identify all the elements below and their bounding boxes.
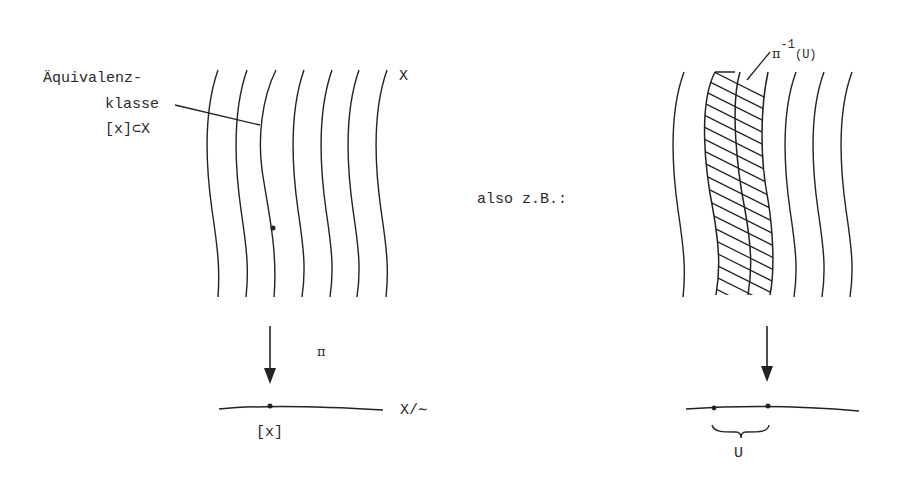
annotation-leader <box>175 105 260 125</box>
preimage-label: π-1(U) <box>754 24 817 64</box>
point-U-left <box>712 406 717 411</box>
preimage-pi: π <box>772 46 781 61</box>
arrowhead-icon <box>264 368 276 384</box>
fiber <box>813 72 824 297</box>
point-class-x <box>268 404 273 409</box>
quotient-label: X/∼ <box>400 402 427 419</box>
fiber <box>236 70 247 297</box>
preimage-band <box>690 60 790 326</box>
band-left-edge <box>705 72 719 295</box>
quotient-line-left <box>219 407 383 411</box>
fibers-left <box>207 70 387 297</box>
preimage-arg: (U) <box>795 48 817 62</box>
fiber <box>348 70 359 297</box>
annotation-line2: klasse <box>105 96 159 113</box>
brace-U <box>712 425 769 438</box>
middle-text: also z.B.: <box>477 191 567 208</box>
arrowhead-icon <box>761 366 773 382</box>
fiber <box>207 70 219 297</box>
preimage-exp: -1 <box>781 38 795 52</box>
point-x <box>271 226 276 231</box>
point-label-x: [x] <box>256 424 283 441</box>
map-label-pi: π <box>317 343 326 360</box>
fiber <box>785 72 796 297</box>
fiber <box>673 72 684 297</box>
point-U-right <box>766 404 771 409</box>
annotation-line3: [x]⊂X <box>105 121 150 138</box>
open-set-label-U: U <box>734 445 743 462</box>
fiber <box>376 70 387 297</box>
space-label-X: X <box>399 68 408 85</box>
fiber <box>260 70 276 297</box>
fiber <box>293 70 304 297</box>
annotation-line1: Äquivalenz- <box>43 70 142 87</box>
fiber <box>841 72 852 297</box>
fiber <box>321 70 332 297</box>
band-right-edge <box>762 72 773 295</box>
band-middle-fiber <box>735 72 751 295</box>
